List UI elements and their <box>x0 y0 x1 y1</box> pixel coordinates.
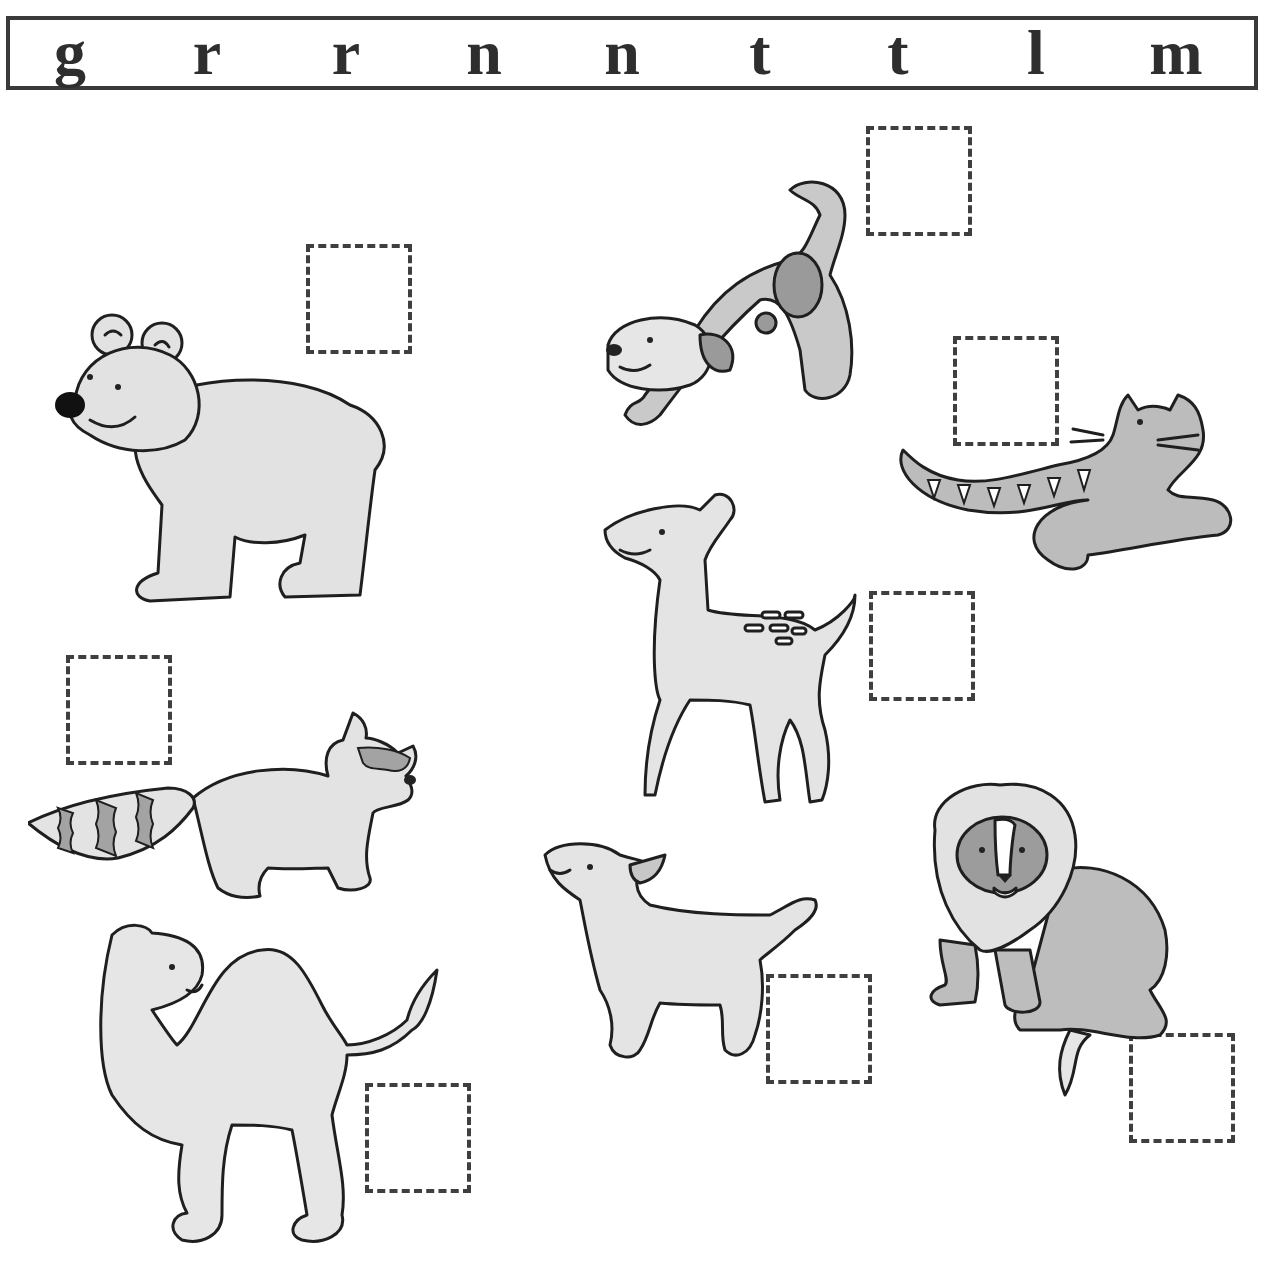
raccoon-illustration <box>28 708 423 903</box>
letter-bank: g r r n n t t l m <box>6 16 1258 90</box>
fawn-illustration <box>600 490 860 815</box>
letter-bank-item: r <box>193 20 221 86</box>
lamb-illustration <box>540 835 820 1075</box>
letter-bank-item: n <box>466 20 502 86</box>
letter-bank-item: t <box>887 20 908 86</box>
letter-bank-item: g <box>54 20 86 86</box>
camel-illustration <box>92 915 447 1255</box>
tiger-illustration <box>888 390 1240 580</box>
answer-box-puppy[interactable] <box>866 126 972 236</box>
letter-bank-item: r <box>332 20 360 86</box>
letter-bank-item: t <box>749 20 770 86</box>
puppy-illustration <box>600 175 865 440</box>
lion-illustration <box>920 780 1195 1100</box>
letter-bank-item: l <box>1027 20 1045 86</box>
letter-bank-item: n <box>604 20 640 86</box>
answer-box-fawn[interactable] <box>869 591 975 701</box>
bear-illustration <box>50 305 395 610</box>
letter-bank-item: m <box>1149 20 1202 86</box>
